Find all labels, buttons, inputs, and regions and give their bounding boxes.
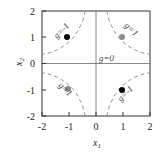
x-tick-label: -1 — [65, 121, 73, 132]
g-label-zero: g=0 — [99, 53, 115, 63]
y-tick-label: 1 — [30, 32, 35, 43]
x-tick-label: 2 — [148, 121, 153, 132]
xor-decision-plot: g=-1 g=1 g=1 g=-1 g=0 -2 -1 0 1 2 2 1 0 … — [0, 0, 163, 161]
x-tick-label: 1 — [121, 121, 126, 132]
y-tick-label: 2 — [30, 6, 35, 17]
g-label-top-right: g=1 — [123, 20, 141, 38]
x-axis-label: x1 — [92, 137, 101, 150]
y-tick-label: -2 — [27, 111, 35, 122]
x-tick-label: -2 — [38, 121, 46, 132]
x-tick-label: 0 — [94, 121, 99, 132]
point-gray-top-right — [119, 34, 125, 40]
y-tick-label: 0 — [30, 58, 35, 69]
y-axis-label: x2 — [13, 58, 26, 67]
g-label-bottom-left: g=1 — [57, 80, 75, 98]
point-black-top-left — [64, 34, 70, 40]
g-label-bottom-right: g=-1 — [115, 84, 135, 104]
y-tick-label: -1 — [27, 85, 35, 96]
